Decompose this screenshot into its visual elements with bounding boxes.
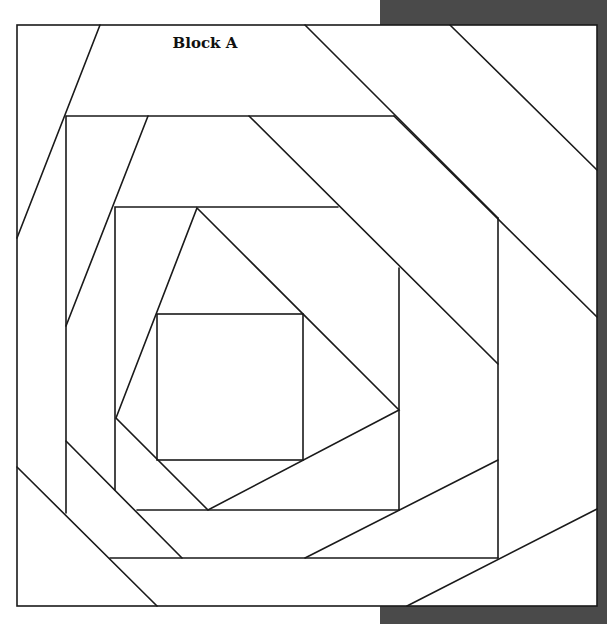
outer-frame <box>17 25 597 606</box>
quilt-block-diagram <box>0 0 607 624</box>
block-title: Block A <box>150 34 260 52</box>
